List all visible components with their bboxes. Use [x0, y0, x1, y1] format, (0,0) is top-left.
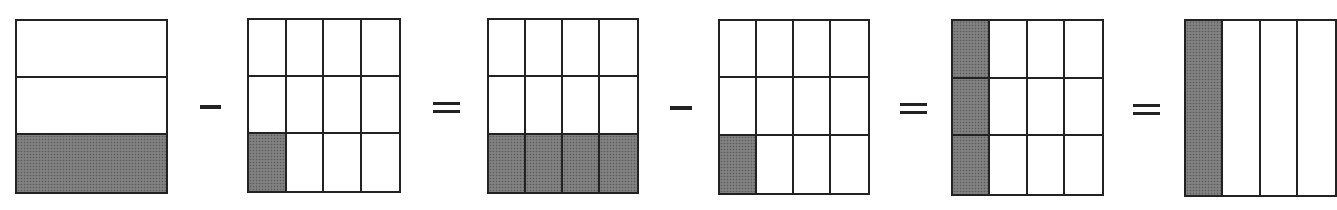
shaded-cell [600, 135, 637, 192]
empty-cell [757, 136, 794, 193]
empty-cell [563, 20, 600, 77]
empty-cell [1298, 21, 1335, 195]
empty-cell [757, 78, 794, 135]
shaded-cell [526, 135, 563, 192]
empty-cell [1028, 136, 1065, 194]
empty-cell [489, 77, 526, 134]
empty-cell [1065, 79, 1102, 137]
empty-cell [17, 21, 166, 78]
empty-cell [757, 21, 794, 78]
empty-cell [1261, 21, 1298, 195]
minus-sign [670, 106, 692, 110]
shaded-cell [17, 135, 166, 192]
shaded-cell [1186, 21, 1223, 195]
empty-cell [600, 77, 637, 134]
empty-cell [794, 136, 831, 193]
empty-cell [990, 79, 1027, 137]
empty-cell [362, 134, 400, 191]
empty-cell [720, 21, 757, 78]
empty-cell [489, 20, 526, 77]
shaded-cell [563, 135, 600, 192]
empty-cell [362, 20, 400, 77]
empty-cell [1065, 136, 1102, 194]
area-model-one-third [15, 19, 168, 194]
empty-cell [794, 78, 831, 135]
minus-sign [200, 105, 221, 109]
empty-cell [563, 77, 600, 134]
empty-cell [990, 136, 1027, 194]
shaded-cell [720, 136, 757, 193]
area-model-one-twelfth-b [718, 19, 870, 195]
empty-cell [1028, 79, 1065, 137]
empty-cell [1223, 21, 1260, 195]
shaded-cell [953, 136, 990, 194]
empty-cell [720, 78, 757, 135]
empty-cell [324, 77, 362, 134]
empty-cell [249, 20, 287, 77]
empty-cell [600, 20, 637, 77]
area-model-three-twelfths [951, 19, 1104, 196]
empty-cell [831, 21, 868, 78]
area-model-one-twelfth-a [247, 18, 401, 193]
empty-cell [324, 20, 362, 77]
empty-cell [831, 78, 868, 135]
empty-cell [249, 77, 287, 134]
equals-sign [900, 103, 927, 115]
area-model-four-twelfths [487, 18, 639, 194]
shaded-cell [249, 134, 287, 191]
empty-cell [287, 77, 325, 134]
empty-cell [990, 21, 1027, 79]
equals-sign [1133, 104, 1160, 116]
empty-cell [17, 78, 166, 135]
empty-cell [831, 136, 868, 193]
empty-cell [362, 77, 400, 134]
shaded-cell [953, 21, 990, 79]
empty-cell [287, 134, 325, 191]
empty-cell [526, 20, 563, 77]
equals-sign [433, 102, 460, 114]
shaded-cell [489, 135, 526, 192]
empty-cell [526, 77, 563, 134]
empty-cell [1065, 21, 1102, 79]
empty-cell [794, 21, 831, 78]
empty-cell [287, 20, 325, 77]
empty-cell [1028, 21, 1065, 79]
empty-cell [324, 134, 362, 191]
area-model-one-fourth [1184, 19, 1337, 197]
shaded-cell [953, 79, 990, 137]
